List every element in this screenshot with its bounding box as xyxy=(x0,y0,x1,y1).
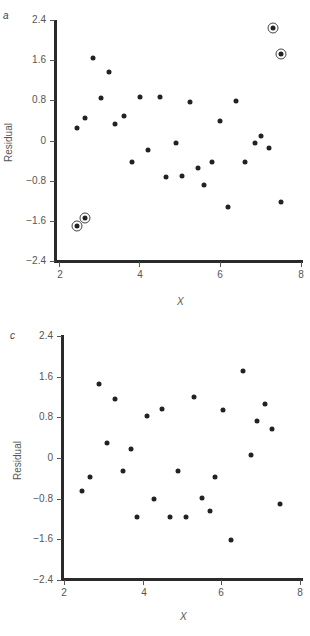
data-point xyxy=(226,204,231,209)
data-point xyxy=(152,496,157,501)
panel-c: c 2.4 1.6 0.8 0 −0.8 −1.6 −2.4 2 4 6 8 R… xyxy=(0,320,310,636)
data-point xyxy=(180,173,185,178)
outlier-point xyxy=(80,213,91,224)
plot-area xyxy=(0,320,310,636)
data-point xyxy=(157,94,162,99)
data-point xyxy=(221,407,226,412)
cut-off-caption xyxy=(0,629,310,636)
data-point xyxy=(168,515,173,520)
data-point xyxy=(160,406,165,411)
data-point xyxy=(242,159,247,164)
data-point xyxy=(163,175,168,180)
data-point xyxy=(173,141,178,146)
data-point xyxy=(134,515,139,520)
data-point xyxy=(105,440,110,445)
data-point xyxy=(213,475,218,480)
data-point xyxy=(128,447,133,452)
data-point xyxy=(278,199,283,204)
data-point xyxy=(262,401,267,406)
data-point xyxy=(202,182,207,187)
data-point xyxy=(137,94,142,99)
data-point xyxy=(188,99,193,104)
data-point xyxy=(144,414,149,419)
data-point xyxy=(79,489,84,494)
outlier-point xyxy=(275,49,286,60)
data-point xyxy=(176,468,181,473)
data-point xyxy=(113,122,118,127)
data-point xyxy=(199,495,204,500)
data-point xyxy=(229,538,234,543)
data-point xyxy=(196,166,201,171)
data-point xyxy=(240,368,245,373)
data-point xyxy=(121,114,126,119)
data-point xyxy=(252,141,257,146)
data-point xyxy=(87,475,92,480)
data-point xyxy=(145,147,150,152)
data-point xyxy=(75,125,80,130)
data-point xyxy=(99,95,104,100)
data-point xyxy=(278,501,283,506)
panel-a: a 2.4 1.6 0.8 0 −0.8 −1.6 −2.4 2 4 6 8 R… xyxy=(0,0,310,320)
data-point xyxy=(258,134,263,139)
data-point xyxy=(121,468,126,473)
data-point xyxy=(191,395,196,400)
data-point xyxy=(207,509,212,514)
data-point xyxy=(83,115,88,120)
data-point xyxy=(210,159,215,164)
plot-area xyxy=(0,0,310,320)
data-point xyxy=(107,69,112,74)
data-point xyxy=(91,55,96,60)
data-point xyxy=(183,515,188,520)
data-point xyxy=(254,419,259,424)
data-point xyxy=(248,453,253,458)
data-point xyxy=(97,382,102,387)
data-point xyxy=(113,396,118,401)
data-point xyxy=(218,119,223,124)
data-point xyxy=(266,146,271,151)
data-point xyxy=(234,99,239,104)
data-point xyxy=(270,427,275,432)
data-point xyxy=(129,159,134,164)
outlier-point xyxy=(267,22,278,33)
